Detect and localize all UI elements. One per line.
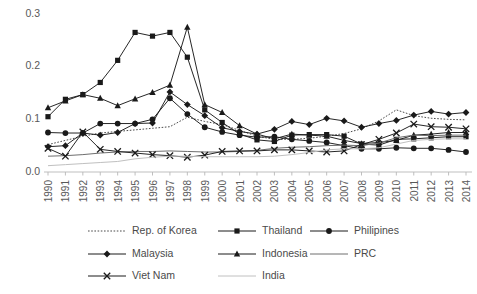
y-tick-label: 0.0: [25, 165, 40, 177]
legend-item-india[interactable]: India: [218, 269, 285, 281]
x-axis: 1990199119921993199419951996199719981999…: [43, 172, 472, 202]
data-point-diamond: [132, 120, 139, 127]
data-point-circle: [428, 145, 434, 151]
x-tick-label: 1993: [95, 180, 106, 203]
x-tick-label: 1990: [43, 180, 54, 203]
x-tick-label: 2012: [426, 180, 437, 203]
x-tick-label: 2006: [322, 180, 333, 203]
chart-legend: Rep. of KoreaThailandPhilipinesMalaysiaI…: [88, 224, 399, 281]
data-point-square: [220, 120, 225, 125]
data-point-circle: [97, 121, 103, 127]
data-point-circle: [306, 138, 312, 144]
data-point-diamond: [219, 124, 226, 131]
y-tick-label: 0.1: [25, 112, 40, 124]
legend-item-rep-of-korea[interactable]: Rep. of Korea: [88, 224, 197, 236]
data-point-diamond: [428, 108, 435, 115]
x-tick-label: 1995: [130, 180, 141, 203]
data-point-diamond: [167, 89, 174, 96]
data-point-diamond: [114, 129, 121, 136]
x-tick-label: 2013: [444, 180, 455, 203]
data-point-circle: [202, 124, 208, 130]
data-point-diamond: [393, 117, 400, 124]
data-point-square: [115, 58, 120, 63]
data-point-square: [45, 114, 50, 119]
y-tick-label: 0.3: [25, 7, 40, 19]
x-tick-label: 2005: [304, 180, 315, 203]
data-point-diamond: [445, 111, 452, 118]
data-point-square: [98, 80, 103, 85]
data-point-circle: [446, 147, 452, 153]
series-line: [48, 27, 466, 143]
x-tick-label: 2002: [252, 180, 263, 203]
x-tick-label: 1998: [182, 180, 193, 203]
x-tick-label: 2011: [409, 180, 420, 202]
data-point-diamond: [62, 142, 69, 149]
data-point-diamond: [463, 109, 470, 116]
legend-item-thailand[interactable]: Thailand: [218, 224, 302, 236]
data-point-diamond: [358, 124, 365, 131]
x-tick-label: 2014: [461, 180, 472, 203]
legend-label: Thailand: [262, 224, 302, 236]
x-tick-label: 2003: [269, 180, 280, 203]
x-tick-label: 1992: [78, 180, 89, 203]
series-thailand: [45, 30, 468, 148]
data-point-circle: [115, 121, 121, 127]
data-point-cross: [393, 130, 399, 136]
data-point-triangle: [184, 24, 190, 30]
data-point-circle: [45, 130, 51, 136]
legend-label: Philipines: [354, 224, 399, 236]
data-point-diamond: [341, 118, 348, 125]
legend-item-prc[interactable]: PRC: [310, 247, 377, 259]
data-point-circle: [289, 136, 295, 142]
data-point-circle: [326, 228, 332, 234]
data-point-circle: [376, 146, 382, 152]
data-point-square: [202, 107, 207, 112]
legend-item-malaysia[interactable]: Malaysia: [88, 247, 174, 259]
series-line: [48, 32, 466, 145]
data-point-square: [167, 30, 172, 35]
data-point-diamond: [184, 101, 191, 108]
series-layer: [45, 24, 470, 166]
data-point-diamond: [410, 112, 417, 119]
data-point-diamond: [323, 115, 330, 122]
x-tick-label: 1997: [165, 180, 176, 203]
x-tick-label: 2000: [217, 180, 228, 203]
data-point-square: [150, 34, 155, 39]
data-point-square: [185, 55, 190, 60]
data-point-diamond: [376, 120, 383, 127]
data-point-diamond: [288, 118, 295, 125]
x-tick-label: 1994: [113, 180, 124, 203]
data-point-triangle: [236, 122, 242, 128]
data-point-diamond: [201, 112, 208, 119]
series-philipines: [45, 95, 469, 155]
data-point-triangle: [219, 109, 225, 115]
legend-label: Malaysia: [132, 247, 174, 259]
data-point-square: [132, 30, 137, 35]
data-point-diamond: [104, 251, 111, 258]
data-point-circle: [463, 149, 469, 155]
legend-label: Viet Nam: [132, 269, 175, 281]
series-line: [48, 98, 466, 152]
legend-label: India: [262, 269, 285, 281]
legend-label: Rep. of Korea: [132, 224, 197, 236]
data-point-triangle: [167, 82, 173, 88]
legend-item-philipines[interactable]: Philipines: [310, 224, 399, 236]
data-point-circle: [184, 111, 190, 117]
data-point-diamond: [306, 121, 313, 128]
data-point-circle: [411, 145, 417, 151]
x-tick-label: 2007: [339, 180, 350, 203]
x-tick-label: 2008: [357, 180, 368, 203]
legend-item-viet-nam[interactable]: Viet Nam: [88, 269, 175, 281]
data-point-square: [234, 228, 239, 233]
chart-canvas: 0.00.10.20.3 199019911992199319941995199…: [0, 0, 477, 294]
y-tick-label: 0.2: [25, 59, 40, 71]
legend-item-indonesia[interactable]: Indonesia: [218, 247, 308, 259]
x-tick-label: 2010: [391, 180, 402, 203]
x-tick-label: 2004: [287, 180, 298, 203]
x-tick-label: 1999: [200, 180, 211, 203]
x-tick-label: 2001: [235, 180, 246, 203]
data-point-circle: [393, 145, 399, 151]
data-point-circle: [324, 140, 330, 146]
x-tick-label: 1991: [60, 180, 71, 203]
legend-label: PRC: [354, 247, 377, 259]
